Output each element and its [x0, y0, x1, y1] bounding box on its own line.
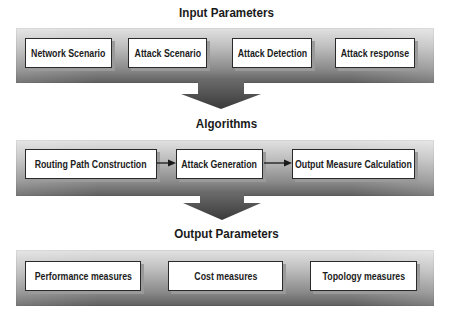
box-label: Attack response — [341, 48, 409, 59]
performance-measures-box: Performance measures — [25, 261, 141, 291]
box-label: Performance measures — [34, 271, 131, 282]
box-label: Topology measures — [322, 271, 404, 282]
attack-response-box: Attack response — [335, 38, 415, 68]
box-label: Network Scenario — [31, 48, 105, 59]
output-measure-calculation-box: Output Measure Calculation — [292, 149, 415, 179]
box-label: Attack Detection — [237, 48, 306, 59]
down-arrow-icon — [180, 80, 262, 110]
right-arrow-icon — [157, 159, 176, 167]
cost-measures-box: Cost measures — [168, 261, 283, 291]
output-parameters-title: Output Parameters — [32, 226, 422, 241]
right-arrow-icon — [264, 159, 292, 167]
network-scenario-box: Network Scenario — [25, 38, 112, 68]
box-label: Routing Path Construction — [35, 159, 147, 170]
down-arrow-icon — [182, 193, 262, 221]
input-parameters-title: Input Parameters — [32, 5, 422, 20]
box-label: Attack Scenario — [134, 48, 201, 59]
algorithms-title: Algorithms — [32, 116, 422, 131]
box-label: Output Measure Calculation — [295, 159, 412, 170]
attack-scenario-box: Attack Scenario — [128, 38, 207, 68]
box-label: Cost measures — [194, 271, 257, 282]
attack-detection-box: Attack Detection — [232, 38, 312, 68]
topology-measures-box: Topology measures — [310, 261, 417, 291]
routing-path-construction-box: Routing Path Construction — [25, 149, 157, 179]
attack-generation-box: Attack Generation — [176, 149, 263, 179]
box-label: Attack Generation — [182, 159, 258, 170]
